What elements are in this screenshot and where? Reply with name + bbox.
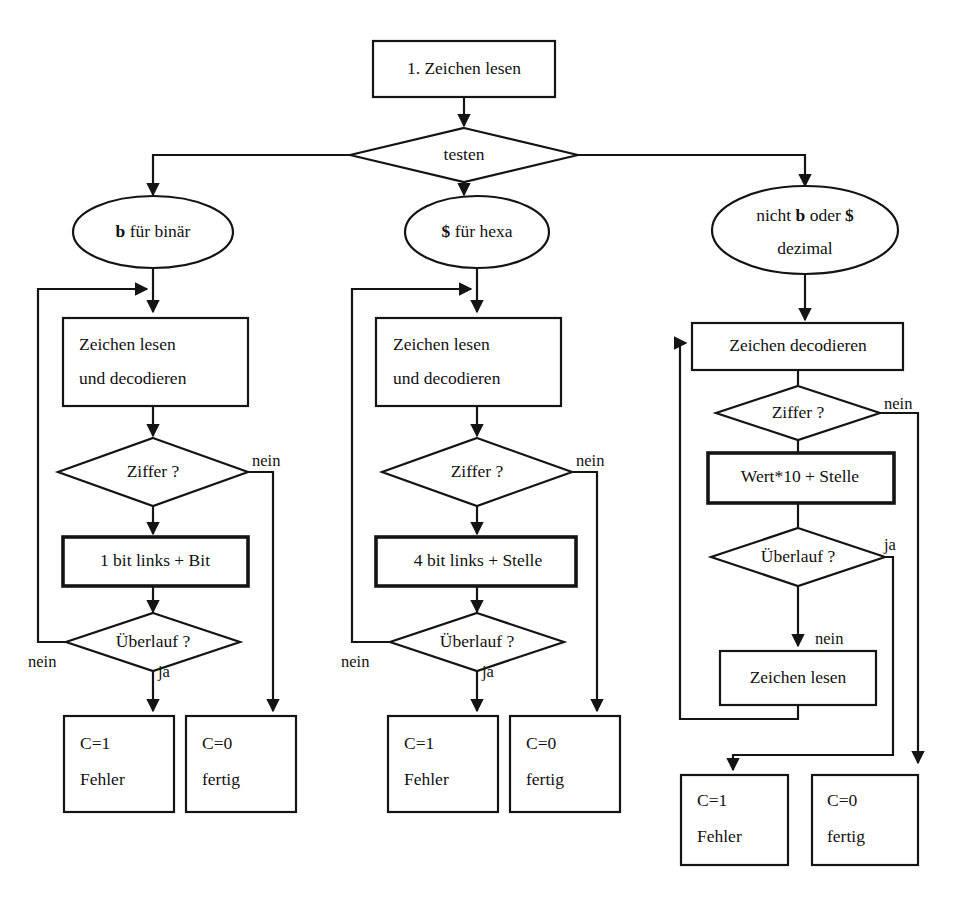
node-binary-ellipse-bold: b [116,221,126,241]
edge-label-binary-digit-no: nein [252,451,280,470]
node-binary-shift-op-label: 1 bit links + Bit [100,550,210,570]
node-hexa-ellipse-label: $ für hexa [442,221,513,241]
edge-test-to-binary [153,155,350,195]
node-start-read-char-label: 1. Zeichen lesen [407,58,521,78]
node-binary-read-line2: und decodieren [79,368,187,388]
edge-label-binary-overflow-yes: ja [157,662,171,681]
edge-label-hexa-overflow-no: nein [341,652,369,671]
node-binary-done-line2: fertig [202,769,240,789]
node-decimal-digit-label: Ziffer ? [772,402,825,422]
edge-label-decimal-overflow-no: nein [815,629,843,648]
node-hexa-ellipse-bold: $ [442,221,451,241]
node-hexa-done [510,716,620,812]
node-decimal-ellipse-l1c: oder [805,205,845,225]
node-decimal-ellipse-line1: nicht b oder $ [756,205,854,225]
edge-label-hexa-overflow-yes: ja [481,662,495,681]
node-decimal-ellipse-line2: dezimal [777,238,833,258]
node-hexa-done-line1: C=0 [526,733,557,753]
edge-label-hexa-digit-no: nein [576,451,604,470]
edge-label-decimal-overflow-yes: ja [883,535,897,554]
node-decimal-read-label: Zeichen lesen [750,667,847,687]
node-decimal-ellipse-l1a: nicht [756,205,795,225]
node-hexa-read-line2: und decodieren [393,368,501,388]
node-binary-read-line1: Zeichen lesen [79,334,176,354]
node-test-decision-label: testen [444,144,485,164]
node-binary-read [63,318,248,406]
node-binary-done [186,716,296,812]
node-decimal-ellipse-l1b: b [796,205,806,225]
node-hexa-read [376,318,561,406]
node-decimal-error-line1: C=1 [697,790,727,810]
edge-label-decimal-digit-no: nein [884,394,912,413]
node-decimal-error [681,775,788,865]
node-hexa-error-line2: Fehler [404,769,449,789]
node-hexa-read-line1: Zeichen lesen [393,334,490,354]
node-decimal-ellipse-l1d: $ [845,205,854,225]
node-decimal-ellipse [712,186,898,274]
node-hexa-shift-op-label: 4 bit links + Stelle [414,550,543,570]
node-binary-ellipse-label: b für binär [116,221,191,241]
node-decimal-done-line1: C=0 [827,790,858,810]
node-hexa-done-line2: fertig [526,769,564,789]
flowchart-canvas: 1. Zeichen lesen testen b für binär Zeic… [0,0,955,900]
edge-label-binary-overflow-no: nein [28,652,56,671]
node-hexa-error-line1: C=1 [404,733,434,753]
node-decimal-error-line2: Fehler [697,826,742,846]
node-hexa-overflow-label: Überlauf ? [440,631,515,651]
node-binary-error-line1: C=1 [80,733,110,753]
node-binary-error-line2: Fehler [80,769,125,789]
node-binary-done-line1: C=0 [202,733,233,753]
node-decimal-mul-op-label: Wert*10 + Stelle [741,466,860,486]
node-hexa-digit-label: Ziffer ? [451,461,504,481]
node-binary-ellipse-rest: für binär [125,221,190,241]
edge-binary-digit-no [248,472,273,711]
node-binary-overflow-label: Überlauf ? [116,631,191,651]
node-decimal-done-line2: fertig [827,826,865,846]
node-binary-error [64,716,174,812]
flowchart-svg: 1. Zeichen lesen testen b für binär Zeic… [0,0,955,900]
node-hexa-ellipse-rest: für hexa [450,221,512,241]
edge-test-to-decimal [578,155,805,186]
node-decimal-decode-label: Zeichen decodieren [729,335,867,355]
edge-hexa-digit-no [572,472,597,711]
node-binary-digit-label: Ziffer ? [127,461,180,481]
node-hexa-error [388,716,498,812]
node-decimal-done [812,775,918,865]
node-decimal-overflow-label: Überlauf ? [761,546,836,566]
